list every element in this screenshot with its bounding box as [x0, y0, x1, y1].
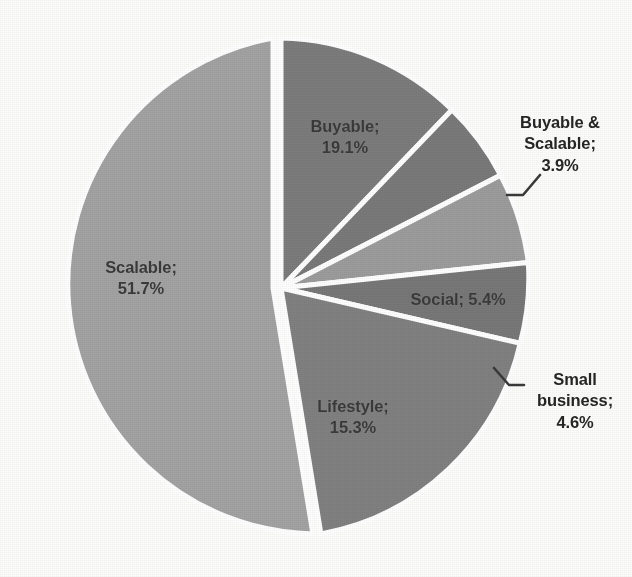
pie-label-scalable: Scalable; 51.7%: [78, 257, 204, 300]
leader-line-buyable-and-scalable: [507, 175, 540, 195]
pie-label-buyable-and-scalable: Buyable & Scalable; 3.9%: [494, 112, 626, 176]
pie-label-lifestyle: Lifestyle; 15.3%: [297, 396, 409, 439]
pie-label-social: Social; 5.4%: [394, 289, 522, 310]
pie-label-small-business: Small business; 4.6%: [522, 369, 628, 433]
pie-label-buyable: Buyable; 19.1%: [293, 116, 397, 159]
pie-chart: Buyable; 19.1% Buyable & Scalable; 3.9% …: [0, 0, 632, 577]
